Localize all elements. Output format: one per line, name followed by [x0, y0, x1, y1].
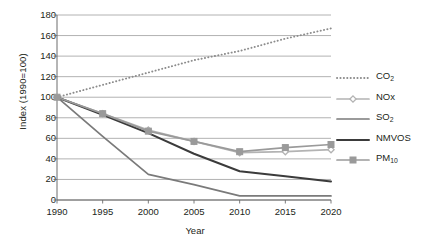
- chart-legend: CO2NOxSO2NMVOSPM10: [336, 66, 424, 169]
- legend-item-PM10[interactable]: PM10: [336, 148, 424, 169]
- marker-PM10: [145, 128, 151, 134]
- legend-swatch-NMVOS: [336, 132, 370, 144]
- legend-swatch-SO2: [336, 111, 370, 123]
- legend-item-CO2[interactable]: CO2: [336, 66, 424, 87]
- legend-label-SO2: SO2: [376, 111, 394, 123]
- legend-item-SO2[interactable]: SO2: [336, 107, 424, 128]
- legend-swatch-PM10: [336, 152, 370, 164]
- legend-label-NOx: NOx: [376, 91, 395, 102]
- legend-item-NMVOS[interactable]: NMVOS: [336, 128, 424, 149]
- marker-PM10: [191, 138, 197, 144]
- marker-PM10: [54, 94, 60, 100]
- legend-swatch-NOx: [336, 91, 370, 103]
- legend-label-CO2: CO2: [376, 70, 394, 82]
- marker-PM10: [328, 142, 334, 148]
- legend-label-NMVOS: NMVOS: [376, 132, 411, 143]
- marker-PM10: [100, 111, 106, 117]
- legend-swatch-CO2: [336, 70, 370, 82]
- legend-item-NOx[interactable]: NOx: [336, 87, 424, 108]
- chart-figure: Index (1990=100) Year 020406080100120140…: [0, 0, 424, 250]
- legend-label-PM10: PM10: [376, 152, 398, 164]
- series-line-CO2: [57, 28, 331, 97]
- marker-PM10: [282, 145, 288, 151]
- marker-PM10: [237, 149, 243, 155]
